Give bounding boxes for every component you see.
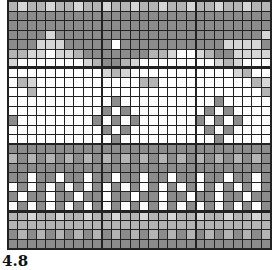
grid-cell <box>262 183 270 192</box>
grid-cell <box>187 202 195 211</box>
grid-cell <box>37 240 45 249</box>
grid-cell <box>131 183 139 192</box>
grid-cell <box>140 221 148 230</box>
grid-cell <box>187 173 195 182</box>
grid-cell <box>234 240 242 249</box>
grid-cell <box>243 21 251 30</box>
grid-cell <box>262 2 270 11</box>
grid-cell <box>205 107 213 116</box>
grid-cell <box>18 12 26 21</box>
grid-cell <box>243 135 251 144</box>
grid-cell <box>18 2 26 11</box>
grid-cell <box>234 154 242 163</box>
grid-cell <box>74 12 82 21</box>
grid-cell <box>168 126 176 135</box>
grid-cell <box>18 135 26 144</box>
grid-cell <box>74 145 82 154</box>
grid-cell <box>149 221 157 230</box>
grid-cell <box>149 240 157 249</box>
grid-cell <box>243 97 251 106</box>
grid-cell <box>140 240 148 249</box>
grid-cell <box>28 40 36 49</box>
grid-cell <box>252 126 260 135</box>
grid-cell <box>187 135 195 144</box>
grid-cell <box>149 154 157 163</box>
grid-cell <box>243 145 251 154</box>
grid-cell <box>187 116 195 125</box>
grid-cell <box>112 88 120 97</box>
grid-cell <box>46 202 54 211</box>
grid-cell <box>84 69 92 78</box>
grid-cell <box>149 50 157 59</box>
grid-cell <box>215 240 223 249</box>
grid-cell <box>252 50 260 59</box>
grid-cell <box>168 183 176 192</box>
grid-cell <box>243 192 251 201</box>
grid-cell <box>262 173 270 182</box>
grid-cell <box>168 202 176 211</box>
grid-cell <box>262 145 270 154</box>
grid-cell <box>112 145 120 154</box>
grid-cell <box>252 21 260 30</box>
grid-cell <box>177 12 185 21</box>
grid-cell <box>74 135 82 144</box>
grid-cell <box>252 230 260 239</box>
grid-cell <box>121 50 129 59</box>
grid-cell <box>187 69 195 78</box>
grid-cell <box>103 192 111 201</box>
grid-cell <box>121 154 129 163</box>
grid-cell <box>103 12 111 21</box>
grid-cell <box>28 192 36 201</box>
grid-cell <box>74 40 82 49</box>
grid-cell <box>243 12 251 21</box>
grid-cell <box>121 221 129 230</box>
grid-cell <box>103 230 111 239</box>
grid-cell <box>46 135 54 144</box>
grid-cell <box>84 164 92 173</box>
grid-cell <box>187 88 195 97</box>
grid-cell <box>112 116 120 125</box>
grid-cell <box>177 78 185 87</box>
grid-cell <box>84 107 92 116</box>
grid-cell <box>205 154 213 163</box>
grid-cell <box>243 173 251 182</box>
grid-cell <box>65 164 73 173</box>
grid-cell <box>149 135 157 144</box>
grid-cell <box>159 107 167 116</box>
grid-cell <box>159 154 167 163</box>
grid-cell <box>103 183 111 192</box>
grid-cell <box>243 107 251 116</box>
grid-cell <box>9 164 17 173</box>
grid-cell <box>28 12 36 21</box>
grid-cell <box>234 116 242 125</box>
grid-cell <box>18 116 26 125</box>
grid-cell <box>28 154 36 163</box>
grid-cell <box>187 50 195 59</box>
grid-cell <box>9 154 17 163</box>
grid-cell <box>252 78 260 87</box>
grid-cell <box>18 69 26 78</box>
grid-cell <box>131 202 139 211</box>
grid-cell <box>224 192 232 201</box>
grid-cell <box>168 145 176 154</box>
grid-cell <box>159 126 167 135</box>
grid-cell <box>224 126 232 135</box>
grid-cell <box>18 97 26 106</box>
grid-cell <box>187 164 195 173</box>
grid-cell <box>84 21 92 30</box>
grid-cell <box>168 97 176 106</box>
grid-cell <box>196 31 204 40</box>
grid-cell <box>56 116 64 125</box>
grid-cell <box>262 107 270 116</box>
grid-cell <box>196 88 204 97</box>
grid-cell <box>234 88 242 97</box>
grid-cell <box>112 135 120 144</box>
grid-cell <box>56 154 64 163</box>
grid-cell <box>84 192 92 201</box>
grid-cell <box>177 21 185 30</box>
grid-cell <box>112 97 120 106</box>
grid-cell <box>121 31 129 40</box>
grid-cell <box>196 12 204 21</box>
grid-cell <box>84 12 92 21</box>
grid-cell <box>243 116 251 125</box>
